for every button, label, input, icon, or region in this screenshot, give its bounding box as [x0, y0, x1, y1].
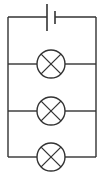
lamp-icon: [37, 50, 65, 78]
branch-1: [8, 50, 96, 78]
parallel-circuit-diagram: [0, 0, 104, 175]
branch-2: [8, 97, 96, 125]
battery-cell-icon: [47, 4, 55, 31]
branch-3: [8, 143, 96, 171]
lamp-icon: [37, 97, 65, 125]
lamp-icon: [37, 143, 65, 171]
